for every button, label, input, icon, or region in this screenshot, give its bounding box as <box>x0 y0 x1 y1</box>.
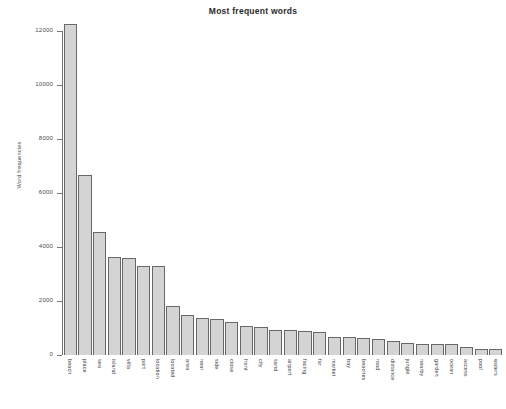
x-axis-tick-label: pool <box>478 359 484 370</box>
bar-slot <box>474 31 489 355</box>
bar-slot <box>107 31 122 355</box>
x-axis-tick-label: market <box>331 359 337 376</box>
x-axis-tick-label: located <box>170 359 176 377</box>
x-label-slot: close <box>224 357 239 407</box>
x-axis-tick-label: area <box>185 359 191 370</box>
y-axis-tick <box>57 139 62 140</box>
bar[interactable] <box>357 338 370 355</box>
bar[interactable] <box>401 343 414 355</box>
bar-slot <box>430 31 445 355</box>
bar-slot <box>180 31 195 355</box>
x-axis-tick-label: waters <box>493 359 499 376</box>
x-axis-tick-label: beach <box>67 359 73 374</box>
bar-slot <box>195 31 210 355</box>
bar[interactable] <box>137 266 150 355</box>
bar[interactable] <box>489 349 502 355</box>
x-axis-tick-label: access <box>463 359 469 377</box>
y-axis-tick-label: 4000 <box>13 243 53 249</box>
x-axis-tick-label: city <box>258 359 264 368</box>
y-axis-label: Word frequencies <box>16 110 22 220</box>
x-label-slot: area <box>180 357 195 407</box>
bar[interactable] <box>196 318 209 355</box>
bar[interactable] <box>343 337 356 355</box>
x-label-slot: airport <box>283 357 298 407</box>
bar-slot <box>78 31 93 355</box>
y-axis-tick <box>57 355 62 356</box>
bar[interactable] <box>416 344 429 355</box>
bar[interactable] <box>313 332 326 355</box>
bar[interactable] <box>108 257 121 355</box>
bar[interactable] <box>284 330 297 355</box>
x-axis-tick-label: far <box>317 359 323 366</box>
bar-slot <box>371 31 386 355</box>
x-axis-tick-label: garden <box>434 359 440 377</box>
bar-slot <box>312 31 327 355</box>
bar[interactable] <box>298 331 311 355</box>
bar[interactable] <box>269 330 282 355</box>
x-label-slot: island <box>107 357 122 407</box>
x-label-slot: pool <box>474 357 489 407</box>
bar-slot <box>239 31 254 355</box>
x-label-slot: facing <box>298 357 313 407</box>
y-axis-tick <box>57 247 62 248</box>
bar[interactable] <box>475 349 488 355</box>
bar-slot <box>356 31 371 355</box>
x-label-slot: place <box>78 357 93 407</box>
bar[interactable] <box>152 266 165 355</box>
y-axis-tick-label: 0 <box>13 351 53 357</box>
x-label-slot: market <box>327 357 342 407</box>
bar[interactable] <box>78 175 91 355</box>
chart-title: Most frequent words <box>0 6 506 16</box>
y-axis-tick <box>57 85 62 86</box>
bar-slot <box>151 31 166 355</box>
x-axis-tick-label: road <box>375 359 381 370</box>
bar-slot <box>415 31 430 355</box>
x-label-slot: front <box>239 357 254 407</box>
x-label-slot: located <box>166 357 181 407</box>
bar[interactable] <box>122 258 135 355</box>
x-label-slot: side <box>210 357 225 407</box>
x-axis-tick-label: side <box>214 359 220 370</box>
bar[interactable] <box>210 319 223 355</box>
x-label-slot: sand <box>268 357 283 407</box>
x-axis-tick-label: location <box>155 359 161 379</box>
bar[interactable] <box>372 339 385 355</box>
x-axis-tick-label: port <box>141 359 147 369</box>
bar[interactable] <box>240 326 253 355</box>
x-label-slot: far <box>312 357 327 407</box>
y-axis-tick-label: 8000 <box>13 135 53 141</box>
bar[interactable] <box>431 344 444 355</box>
bar[interactable] <box>328 337 341 355</box>
x-label-slot: garden <box>430 357 445 407</box>
bar[interactable] <box>225 322 238 355</box>
x-axis-tick-label: close <box>229 359 235 372</box>
bar-chart: Most frequent words Word frequencies 020… <box>0 0 506 409</box>
x-axis-tick-label: jungle <box>405 359 411 374</box>
x-axis-tick-label: beaches <box>361 359 367 380</box>
x-axis-tick-label: villa <box>126 359 132 369</box>
bar[interactable] <box>93 232 106 355</box>
bar[interactable] <box>460 347 473 355</box>
x-label-slot: nearby <box>415 357 430 407</box>
bar-slot <box>386 31 401 355</box>
y-axis-tick-label: 6000 <box>13 189 53 195</box>
bar[interactable] <box>445 344 458 355</box>
x-axis-tick-label: airport <box>287 359 293 375</box>
bar[interactable] <box>254 327 267 355</box>
bar-slot <box>342 31 357 355</box>
bar-series <box>63 31 503 355</box>
x-label-slot: beaches <box>356 357 371 407</box>
y-axis-tick-label: 2000 <box>13 297 53 303</box>
plot-area <box>63 31 503 355</box>
bar-slot <box>136 31 151 355</box>
x-label-slot: villa <box>122 357 137 407</box>
bar[interactable] <box>64 24 77 355</box>
bar[interactable] <box>166 306 179 355</box>
x-label-slot: jungle <box>400 357 415 407</box>
x-label-slot: sea <box>92 357 107 407</box>
y-axis-tick <box>57 31 62 32</box>
bar[interactable] <box>387 341 400 355</box>
bar-slot <box>298 31 313 355</box>
x-axis-tick-label: place <box>82 359 88 373</box>
bar[interactable] <box>181 315 194 355</box>
